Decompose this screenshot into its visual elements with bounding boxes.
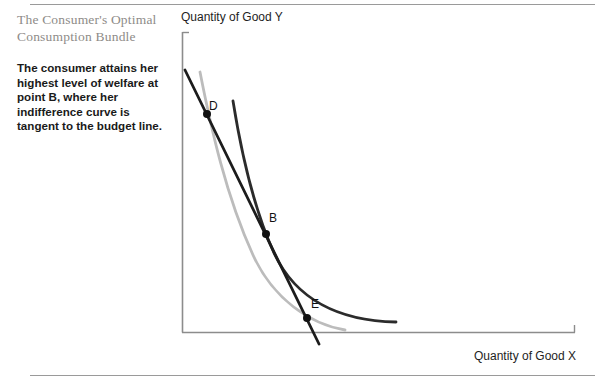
figure-panel: The Consumer's Optimal Consumption Bundl…	[0, 0, 611, 387]
lower-indifference-curve	[200, 72, 345, 330]
point-label-d: D	[209, 99, 218, 113]
chart-svg	[0, 0, 611, 387]
point-marker-e	[303, 314, 311, 322]
y-axis-label: Quantity of Good Y	[181, 10, 283, 24]
plot-area: Quantity of Good Y Quantity of Good X D …	[0, 0, 611, 387]
point-label-e: E	[311, 297, 319, 311]
point-marker-b	[262, 230, 270, 238]
point-label-b: B	[269, 211, 277, 225]
x-axis-label: Quantity of Good X	[474, 349, 576, 363]
higher-indifference-curve	[233, 101, 396, 322]
